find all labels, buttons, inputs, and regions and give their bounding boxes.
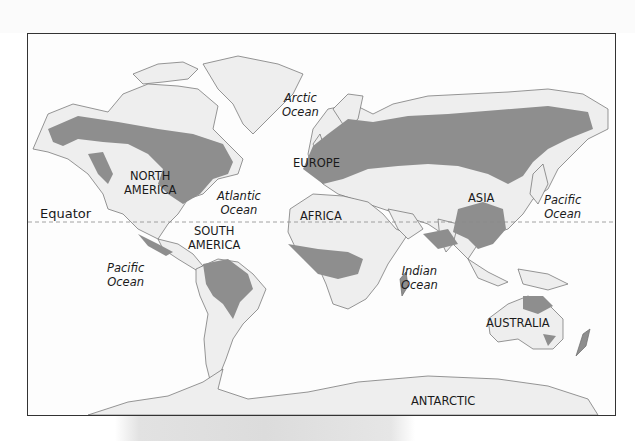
label-indian-ocean: Indian Ocean (401, 264, 438, 292)
map-graphic (28, 34, 615, 415)
page-top-band (0, 0, 635, 33)
world-map: NORTH AMERICA SOUTH AMERICA EUROPE AFRIC… (27, 33, 616, 416)
label-atlantic-ocean: Atlantic Ocean (217, 189, 261, 217)
label-north-america: NORTH AMERICA (124, 169, 176, 197)
label-antarctic: ANTARCTIC (411, 394, 475, 408)
label-asia: ASIA (468, 191, 494, 205)
label-equator: Equator (40, 206, 91, 221)
label-arctic-ocean: Arctic Ocean (282, 91, 319, 119)
label-europe: EUROPE (293, 156, 340, 170)
label-pacific-ocean-east: Pacific Ocean (544, 193, 581, 221)
label-africa: AFRICA (300, 209, 342, 223)
label-pacific-ocean-west: Pacific Ocean (107, 261, 144, 289)
label-south-america: SOUTH AMERICA (188, 224, 240, 252)
antarctica-land (88, 369, 598, 415)
label-australia: AUSTRALIA (486, 316, 550, 330)
page-shadow (115, 416, 415, 441)
